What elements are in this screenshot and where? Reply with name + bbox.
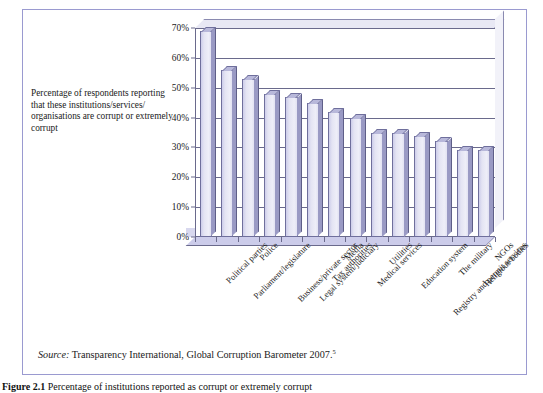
bar [221, 70, 233, 237]
bar [435, 141, 447, 237]
bar-side-face [404, 129, 409, 236]
source-text: Transparency International, Global Corru… [69, 349, 332, 360]
bar-side-face [275, 90, 280, 236]
bar [457, 150, 469, 237]
source-label: Source: [38, 349, 69, 360]
bar-side-face [211, 27, 216, 236]
y-axis-tick [191, 177, 195, 178]
bar [264, 94, 276, 237]
figure-caption-label: Figure 2.1 [2, 381, 45, 392]
bar-side-face [447, 138, 452, 236]
bar [285, 97, 297, 237]
bar-side-face [489, 147, 494, 236]
bar [307, 103, 319, 237]
bar-side-face [468, 147, 473, 236]
bar [200, 31, 212, 237]
bar [242, 79, 254, 237]
source-line: Source: Transparency International, Glob… [38, 348, 336, 360]
y-axis-tick [191, 28, 195, 29]
bar [328, 112, 340, 237]
x-axis-tick [345, 237, 346, 242]
x-axis-tick [324, 237, 325, 242]
bar [392, 133, 404, 238]
gridline [195, 28, 495, 29]
figure-caption-text: Percentage of institutions reported as c… [45, 381, 312, 392]
x-axis-category-label: Political parties [224, 240, 269, 285]
figure-caption: Figure 2.1 Percentage of institutions re… [2, 381, 542, 392]
bar-side-face [318, 99, 323, 236]
x-axis-tick [495, 237, 496, 242]
chart-floor [186, 237, 495, 246]
y-axis-tick-label: 20% [172, 172, 189, 182]
y-axis-tick-label: 40% [172, 113, 189, 123]
axis-caption-text: Percentage of respondents reporting that… [31, 88, 173, 134]
bar [371, 133, 383, 238]
x-axis-tick [388, 237, 389, 242]
y-axis-tick-label: 10% [172, 202, 189, 212]
bar-side-face [339, 108, 344, 236]
y-axis-tick-label: 0% [177, 232, 190, 242]
x-axis-tick [195, 237, 196, 242]
x-axis-tick [216, 237, 217, 242]
source-footnote-marker: 5 [332, 348, 335, 355]
gridline [195, 88, 495, 89]
y-axis-tick-label: 70% [172, 23, 189, 33]
bar [414, 136, 426, 238]
bar-side-face [382, 129, 387, 236]
bar-side-face [297, 93, 302, 236]
y-axis-tick [191, 147, 195, 148]
gridline [195, 58, 495, 59]
chart-back-wall-right [495, 11, 504, 228]
x-axis-tick [238, 237, 239, 242]
y-axis-tick [191, 87, 195, 88]
gridline [195, 118, 495, 119]
y-axis-tick-label: 50% [172, 83, 189, 93]
y-axis-tick-label: 30% [172, 142, 189, 152]
y-axis-tick [191, 57, 195, 58]
x-axis-tick [409, 237, 410, 242]
bar-side-face [425, 132, 430, 236]
y-axis-tick [191, 207, 195, 208]
bar-chart: 0%10%20%30%40%50%60%70% Political partie… [155, 18, 515, 348]
x-axis-tick [474, 237, 475, 242]
x-axis-tick [281, 237, 282, 242]
figure-frame: Percentage of respondents reporting that… [22, 9, 527, 375]
bar-side-face [254, 75, 259, 236]
x-axis-tick [452, 237, 453, 242]
chart-back-wall-top [195, 19, 504, 28]
y-axis-tick [191, 117, 195, 118]
bar-side-face [361, 114, 366, 236]
bar [478, 150, 490, 237]
bar [350, 118, 362, 237]
x-axis-tick [431, 237, 432, 242]
y-axis-tick-label: 60% [172, 53, 189, 63]
plot-area: 0%10%20%30%40%50%60%70% [195, 28, 495, 237]
bar-side-face [232, 66, 237, 236]
